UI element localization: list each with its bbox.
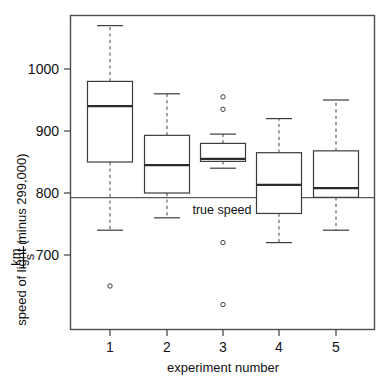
y-tick-label: 900: [36, 123, 60, 139]
x-tick-label: 3: [219, 339, 227, 355]
y-axis-title-denominator: s: [22, 253, 37, 260]
true-speed-label: true speed: [192, 203, 251, 217]
x-tick-label: 2: [163, 339, 171, 355]
box-iqr: [314, 151, 359, 198]
y-tick-label: 800: [36, 185, 60, 201]
y-axis-title-numerator: km: [8, 248, 23, 265]
x-tick-label: 1: [106, 339, 114, 355]
y-axis-title-suffix: minus 299,000): [14, 153, 29, 243]
y-tick-label: 1000: [28, 61, 59, 77]
y-tick-label: 700: [36, 247, 60, 263]
chart-canvas: 700 800 900 1000 speed of light ( km s m…: [0, 0, 390, 380]
x-tick-label: 4: [275, 339, 283, 355]
x-tick-label: 5: [332, 339, 340, 355]
box-iqr: [88, 81, 133, 162]
box-iqr: [257, 153, 302, 214]
boxplot-figure: 700 800 900 1000 speed of light ( km s m…: [0, 0, 390, 380]
x-axis-title: experiment number: [167, 360, 280, 375]
